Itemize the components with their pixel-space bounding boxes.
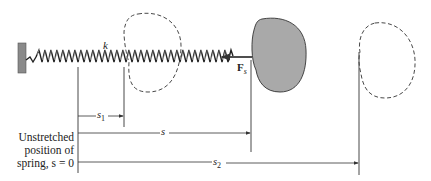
- s-label: s: [161, 127, 165, 138]
- unstretched-line-3: spring, s = 0: [4, 157, 74, 170]
- unstretched-line-2: position of: [4, 144, 74, 157]
- unstretched-position-label: Unstretched position of spring, s = 0: [4, 131, 74, 170]
- s2-subscript: 2: [217, 161, 221, 170]
- s1-subscript: 1: [101, 114, 105, 123]
- body-final-outline: [359, 23, 415, 98]
- force-label: Fs: [237, 62, 247, 76]
- force-subscript: s: [244, 67, 247, 76]
- s1-label: s1: [97, 110, 105, 123]
- wall-support: [18, 43, 26, 73]
- spring-constant-label: k: [103, 40, 108, 51]
- s2-label: s2: [213, 157, 221, 170]
- s-text: s: [161, 126, 165, 137]
- body-current-shaded: [252, 18, 306, 92]
- force-text: F: [237, 61, 244, 73]
- unstretched-line-1: Unstretched: [4, 131, 74, 144]
- spring-constant-text: k: [103, 39, 108, 51]
